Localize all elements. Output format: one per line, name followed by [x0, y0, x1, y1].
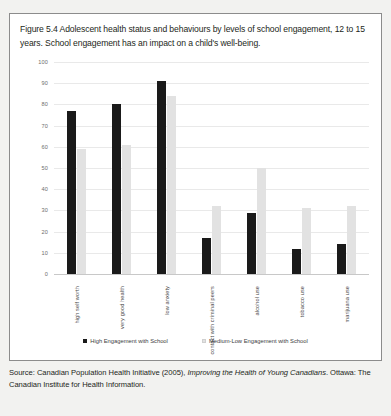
bar	[212, 206, 221, 274]
gridline-0	[54, 274, 369, 275]
bar	[77, 149, 86, 274]
bar-plot	[54, 62, 369, 274]
bar-group	[234, 62, 279, 274]
y-axis: 1009080706050403020100	[20, 62, 52, 274]
y-axis-tick-10: 10	[42, 250, 48, 256]
x-axis-label: contact with criminal peers	[209, 286, 215, 355]
y-axis-tick-80: 80	[42, 101, 48, 107]
bar-group	[324, 62, 369, 274]
chart-legend: High Engagement with SchoolMedium-Low En…	[20, 338, 371, 344]
bar	[67, 111, 76, 274]
x-axis-label: high self worth	[74, 286, 80, 324]
y-axis-tick-50: 50	[42, 165, 48, 171]
y-axis-tick-70: 70	[42, 123, 48, 129]
bar-group	[279, 62, 324, 274]
figure-title: Figure 5.4 Adolescent health status and …	[20, 23, 371, 50]
bar	[247, 213, 256, 274]
bar	[112, 104, 121, 274]
bar-group	[144, 62, 189, 274]
y-axis-tick-20: 20	[42, 229, 48, 235]
bar	[292, 249, 301, 274]
legend-label: High Engagement with School	[90, 338, 168, 344]
bar	[167, 96, 176, 274]
bar	[122, 145, 131, 274]
x-axis-label: low anxiety	[164, 286, 170, 315]
legend-label: Medium-Low Engagement with School	[209, 338, 308, 344]
chart: 1009080706050403020100 high self worthve…	[20, 52, 371, 352]
x-axis-label: tobacco use	[299, 286, 305, 317]
bar-group	[189, 62, 234, 274]
plot-wrapper: 1009080706050403020100	[20, 62, 369, 284]
y-axis-tick-30: 30	[42, 207, 48, 213]
bar	[202, 238, 211, 274]
bar	[302, 208, 311, 274]
source-publication-title: Improving the Health of Young Canadians	[187, 368, 326, 377]
bar-group	[99, 62, 144, 274]
legend-item: High Engagement with School	[83, 338, 168, 344]
source-note: Source: Canadian Population Health Initi…	[9, 367, 382, 391]
y-axis-tick-40: 40	[42, 186, 48, 192]
bar	[157, 81, 166, 274]
bar	[337, 244, 346, 274]
figure-box: Figure 5.4 Adolescent health status and …	[9, 13, 382, 361]
legend-swatch-icon	[202, 339, 206, 343]
bar-group	[54, 62, 99, 274]
figure-page: Figure 5.4 Adolescent health status and …	[0, 13, 391, 416]
x-axis-label: marijuana use	[344, 286, 350, 322]
y-axis-tick-60: 60	[42, 144, 48, 150]
y-axis-tick-90: 90	[42, 80, 48, 86]
source-prefix: Source: Canadian Population Health Initi…	[9, 368, 187, 377]
legend-item: Medium-Low Engagement with School	[202, 338, 308, 344]
y-axis-tick-100: 100	[38, 59, 48, 65]
x-axis-label: alcohol use	[254, 286, 260, 315]
bar	[347, 206, 356, 274]
x-axis-label: very good health	[119, 286, 125, 329]
bar	[257, 168, 266, 274]
legend-swatch-icon	[83, 339, 87, 343]
y-axis-tick-0: 0	[45, 271, 48, 277]
